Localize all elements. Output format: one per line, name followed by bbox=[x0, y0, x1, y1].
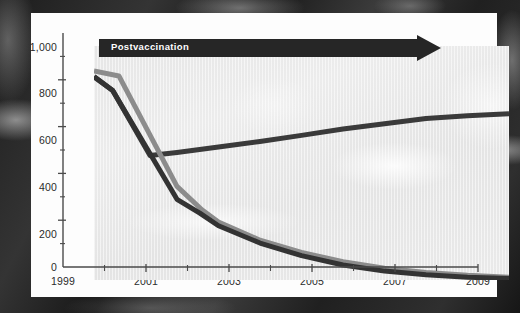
postvaccination-banner: Postvaccination bbox=[99, 35, 441, 61]
chart-panel: 1,000 800 600 400 200 0 1999 2001 2003 2… bbox=[31, 13, 497, 297]
figure-root: 1,000 800 600 400 200 0 1999 2001 2003 2… bbox=[0, 0, 520, 313]
banner-label: Postvaccination bbox=[111, 41, 189, 52]
